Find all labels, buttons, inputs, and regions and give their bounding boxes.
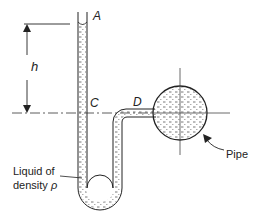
liquid-leader-line — [60, 176, 82, 178]
label-c: C — [90, 96, 99, 110]
label-h: h — [31, 59, 38, 74]
label-d: D — [133, 95, 142, 109]
label-a: A — [92, 9, 101, 23]
pipe-pointer-arrow — [203, 134, 224, 150]
label-liquid-line2: density ρ — [13, 179, 57, 191]
label-liquid-line1: Liquid of — [13, 165, 56, 177]
manometer-diagram: A h C D Pipe Liquid of density ρ — [0, 0, 261, 220]
height-arrow — [23, 24, 31, 113]
label-pipe: Pipe — [226, 148, 248, 160]
